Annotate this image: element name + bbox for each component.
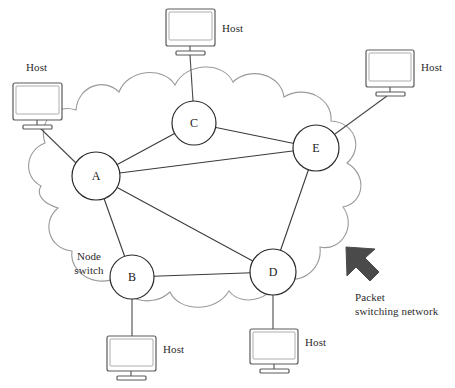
host-left-label: Host (26, 61, 47, 74)
host-top-label: Host (222, 22, 243, 35)
node-A[interactable]: A (72, 152, 120, 200)
host-bottom-left-label: Host (163, 343, 184, 356)
node-switch-label: Node switch (66, 249, 112, 277)
host-bottom-left-monitor-icon[interactable] (107, 336, 156, 380)
packet-switching-label-line1: Packet (355, 291, 385, 303)
host-top-monitor-icon[interactable] (166, 9, 215, 55)
node-B-label: B (128, 270, 136, 284)
network-diagram: A B C D E (0, 0, 455, 388)
host-monitors (13, 9, 414, 380)
node-E[interactable]: E (293, 125, 339, 171)
node-C[interactable]: C (172, 101, 216, 145)
node-B[interactable]: B (110, 255, 154, 299)
host-bottom-right-monitor-icon[interactable] (250, 329, 298, 373)
pointer-arrow-icon (346, 247, 379, 281)
cable-host-right-to-E (335, 96, 387, 134)
host-right-label: Host (421, 61, 442, 74)
node-D-label: D (269, 265, 278, 279)
node-switches: A B C D E (72, 101, 339, 299)
link-A-E (96, 148, 316, 176)
diagram-canvas: A B C D E (0, 0, 455, 388)
cable-host-top-to-C (190, 55, 193, 101)
node-switch-label-line2: switch (74, 264, 103, 276)
packet-switching-label-line2: switching network (355, 305, 438, 317)
node-E-label: E (312, 141, 319, 155)
host-left-monitor-icon[interactable] (13, 83, 62, 129)
node-switch-label-line1: Node (77, 250, 101, 262)
node-D[interactable]: D (250, 249, 296, 295)
cable-host-left-to-A (40, 128, 77, 164)
host-bottom-right-label: Host (305, 336, 326, 349)
packet-switching-network-label: Packet switching network (355, 290, 455, 318)
node-C-label: C (190, 116, 198, 130)
host-right-monitor-icon[interactable] (366, 50, 414, 96)
node-A-label: A (92, 169, 101, 183)
